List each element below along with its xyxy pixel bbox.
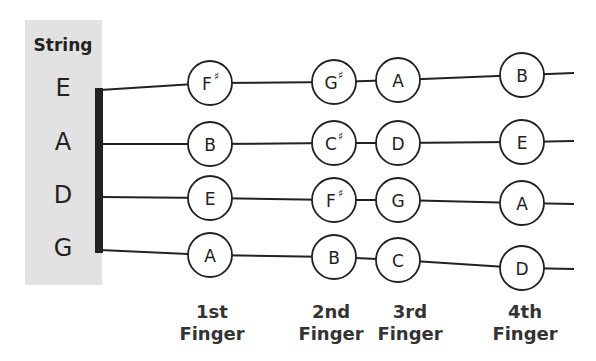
note-label: C — [325, 134, 337, 154]
finger-number: 3rd — [393, 301, 427, 322]
note-label: G — [391, 191, 404, 211]
note-label: E — [517, 133, 528, 153]
finger-word: Finger — [298, 323, 363, 344]
finger-word: Finger — [377, 323, 442, 344]
nut-bar — [95, 88, 103, 253]
note-label: G — [324, 73, 337, 93]
string-name: G — [54, 234, 73, 262]
string-name: A — [55, 128, 72, 156]
note-label: A — [204, 246, 216, 266]
finger-word: Finger — [179, 323, 244, 344]
note-circle: F♯ — [188, 61, 232, 105]
finger-labels: 1stFinger2ndFinger3rdFinger4thFinger — [179, 301, 557, 344]
finger-number: 1st — [196, 301, 228, 322]
string-name: E — [55, 74, 70, 102]
sharp-sign: ♯ — [338, 187, 343, 200]
finger-word: Finger — [492, 323, 557, 344]
note-circle: B — [312, 235, 356, 279]
note-label: B — [328, 248, 340, 268]
note-label: D — [391, 134, 404, 154]
note-circle: F♯ — [312, 178, 356, 222]
panel-title: String — [34, 35, 93, 55]
sharp-sign: ♯ — [338, 69, 343, 82]
note-label: D — [515, 259, 528, 279]
note-label: B — [516, 66, 528, 86]
note-label: B — [204, 135, 216, 155]
note-circle: D — [500, 246, 544, 290]
note-label: E — [205, 189, 216, 209]
sharp-sign: ♯ — [338, 130, 343, 143]
note-label: A — [392, 71, 404, 91]
note-circle: C — [376, 238, 420, 282]
note-label: F — [326, 191, 336, 211]
note-circle: B — [500, 53, 544, 97]
note-label: F — [202, 74, 212, 94]
finger-number: 4th — [508, 301, 542, 322]
note-circle: C♯ — [312, 121, 356, 165]
note-circle: E — [188, 176, 232, 220]
note-circle: E — [500, 120, 544, 164]
note-circle: B — [188, 122, 232, 166]
note-label: C — [392, 251, 404, 271]
note-circle: D — [376, 121, 420, 165]
note-circle: A — [376, 58, 420, 102]
note-circle: G — [376, 178, 420, 222]
violin-fingering-diagram: String F♯G♯ABBC♯DEEF♯GAABCD EADG 1stFing… — [0, 0, 596, 361]
note-circle: A — [188, 233, 232, 277]
note-label: A — [516, 194, 528, 214]
string-name: D — [54, 181, 72, 209]
finger-number: 2nd — [312, 301, 350, 322]
notes-layer: F♯G♯ABBC♯DEEF♯GAABCD — [188, 53, 544, 290]
sharp-sign: ♯ — [214, 70, 219, 83]
note-circle: G♯ — [312, 60, 356, 104]
note-circle: A — [500, 181, 544, 225]
